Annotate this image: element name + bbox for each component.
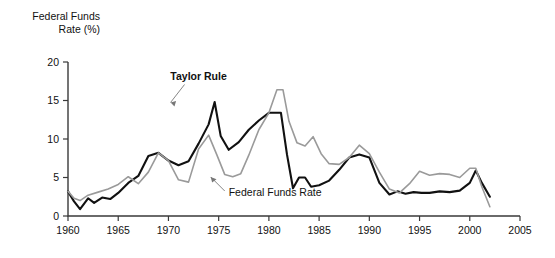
x-tick-label: 1975 bbox=[207, 224, 231, 236]
y-tick-label: 0 bbox=[53, 210, 59, 222]
x-tick-label: 1995 bbox=[408, 224, 432, 236]
annotation-label: Taylor Rule bbox=[170, 70, 227, 82]
x-tick-label: 1960 bbox=[56, 224, 80, 236]
annotation-label: Federal Funds Rate bbox=[229, 186, 322, 198]
x-tick-label: 1980 bbox=[257, 224, 281, 236]
y-tick-label: 15 bbox=[47, 94, 59, 106]
x-tick-label: 2000 bbox=[458, 224, 482, 236]
y-tick-label: 20 bbox=[47, 56, 59, 68]
x-tick-label: 1970 bbox=[157, 224, 181, 236]
x-axis-ticks: 1960196519701975198019851990199520002005 bbox=[56, 216, 532, 236]
x-tick-label: 1985 bbox=[307, 224, 331, 236]
x-tick-label: 2005 bbox=[508, 224, 532, 236]
annotation-leader-line bbox=[171, 84, 185, 102]
y-tick-label: 10 bbox=[47, 133, 59, 145]
x-tick-label: 1965 bbox=[107, 224, 131, 236]
x-tick-label: 1990 bbox=[358, 224, 382, 236]
chart-figure: Federal Funds Rate (%) 05101520 19601965… bbox=[0, 0, 555, 258]
line-chart-plot: 05101520 1960196519701975198019851990199… bbox=[0, 0, 555, 258]
y-axis-ticks: 05101520 bbox=[47, 56, 68, 222]
y-tick-label: 5 bbox=[53, 171, 59, 183]
